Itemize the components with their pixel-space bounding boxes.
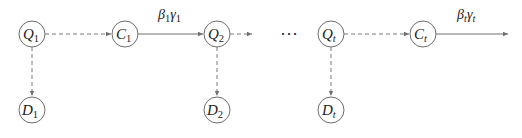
node-q1: Q1: [19, 21, 45, 47]
node-ct: Ct: [410, 21, 436, 47]
diagram-canvas: β1γ1 βtγt ⋯ Q1 C1 Q2 Qt Ct D1 D2 Dt: [0, 0, 522, 138]
node-d1: D1: [19, 97, 45, 123]
ellipsis: ⋯: [280, 23, 298, 43]
node-d2: D2: [204, 97, 230, 123]
edge-label-c1-q2: β1γ1: [157, 7, 181, 24]
node-c1: C1: [112, 21, 138, 47]
node-dt: Dt: [318, 97, 344, 123]
edges: [32, 34, 508, 96]
node-qt: Qt: [318, 21, 344, 47]
node-q2: Q2: [204, 21, 230, 47]
edge-label-ct-out: βtγt: [456, 7, 476, 24]
